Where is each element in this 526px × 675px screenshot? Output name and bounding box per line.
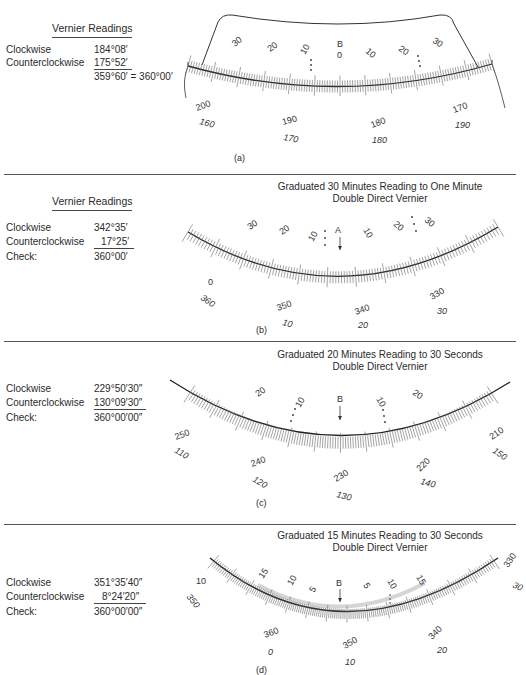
svg-text:180: 180 [369, 115, 387, 130]
svg-text:200: 200 [194, 98, 212, 113]
svg-text:10: 10 [285, 573, 299, 587]
caption-c: (c) [256, 498, 267, 508]
vernier-diagram-a: B 0 30 20 10 10 20 30 200 160 190 170 18… [0, 0, 526, 165]
svg-text:350: 350 [184, 592, 201, 610]
vernier-diagram-b: A 30 20 10 10 20 30 0 360 350 10 340 20 … [0, 175, 526, 335]
svg-text:15: 15 [414, 573, 428, 587]
svg-text:20: 20 [265, 40, 279, 54]
svg-text:15: 15 [256, 566, 270, 580]
svg-text:10: 10 [196, 576, 206, 586]
svg-text:20: 20 [411, 387, 425, 401]
svg-text:20: 20 [253, 385, 267, 399]
panel-a: Vernier Readings Clockwise 184°08′ Count… [0, 0, 526, 165]
svg-text:350: 350 [341, 635, 359, 651]
svg-text:30: 30 [230, 34, 244, 48]
svg-text:10: 10 [364, 46, 378, 60]
svg-text:250: 250 [173, 427, 191, 442]
caption-a: (a) [234, 153, 245, 163]
svg-text:A: A [335, 225, 341, 235]
svg-text:360: 360 [262, 625, 280, 640]
caption-d: (d) [256, 665, 267, 675]
svg-text:240: 240 [249, 454, 267, 469]
svg-text:190: 190 [281, 113, 298, 127]
svg-text:330: 330 [428, 286, 446, 302]
svg-text:170: 170 [451, 100, 469, 115]
svg-text:10: 10 [298, 42, 312, 56]
svg-text:20: 20 [392, 219, 406, 233]
panel-c: Graduated 20 Minutes Reading to 30 Secon… [0, 342, 526, 507]
svg-text:30: 30 [511, 580, 524, 593]
svg-text:10: 10 [374, 395, 388, 409]
svg-text:10: 10 [361, 226, 375, 240]
svg-text:130: 130 [335, 489, 352, 503]
svg-text:10: 10 [345, 657, 355, 667]
svg-text:10: 10 [293, 395, 307, 409]
svg-text:150: 150 [491, 445, 509, 462]
svg-text:30: 30 [437, 306, 447, 316]
svg-text:160: 160 [198, 116, 215, 130]
svg-text:0: 0 [337, 50, 342, 60]
svg-text:10: 10 [385, 577, 399, 591]
svg-text:170: 170 [283, 132, 300, 144]
svg-text:230: 230 [332, 468, 350, 484]
svg-text:120: 120 [251, 474, 269, 490]
svg-text:0: 0 [208, 277, 213, 287]
panel-b: Graduated 30 Minutes Reading to One Minu… [0, 175, 526, 335]
svg-text:330: 330 [501, 551, 518, 569]
svg-text:190: 190 [455, 120, 470, 130]
svg-text:340: 340 [353, 302, 371, 317]
svg-text:30: 30 [423, 215, 437, 229]
svg-text:20: 20 [436, 645, 447, 655]
svg-text:20: 20 [397, 43, 411, 57]
svg-text:B: B [336, 578, 342, 588]
caption-b: (b) [256, 325, 267, 335]
index-letter: B [337, 39, 343, 49]
svg-text:340: 340 [426, 624, 444, 642]
vernier-diagram-d: B 15 10 5 5 10 15 10 350 360 0 350 10 34… [0, 525, 526, 673]
svg-text:B: B [337, 394, 343, 404]
svg-text:10: 10 [306, 229, 320, 243]
svg-text:10: 10 [281, 317, 293, 329]
svg-text:360: 360 [199, 292, 217, 309]
svg-text:20: 20 [357, 320, 368, 330]
svg-text:0: 0 [268, 647, 273, 657]
svg-text:110: 110 [173, 445, 190, 461]
svg-text:140: 140 [419, 476, 436, 490]
svg-text:220: 220 [414, 456, 432, 474]
svg-text:210: 210 [487, 425, 505, 442]
svg-text:20: 20 [277, 223, 291, 237]
svg-text:30: 30 [245, 218, 259, 232]
svg-text:350: 350 [275, 298, 293, 313]
svg-text:30: 30 [431, 35, 445, 49]
svg-text:5: 5 [361, 581, 372, 590]
vernier-diagram-c: B 20 10 10 20 250 110 240 120 230 130 22… [0, 342, 526, 507]
svg-text:180: 180 [372, 135, 387, 145]
svg-text:5: 5 [307, 585, 318, 594]
panel-d: Graduated 15 Minutes Reading to 30 Secon… [0, 525, 526, 673]
